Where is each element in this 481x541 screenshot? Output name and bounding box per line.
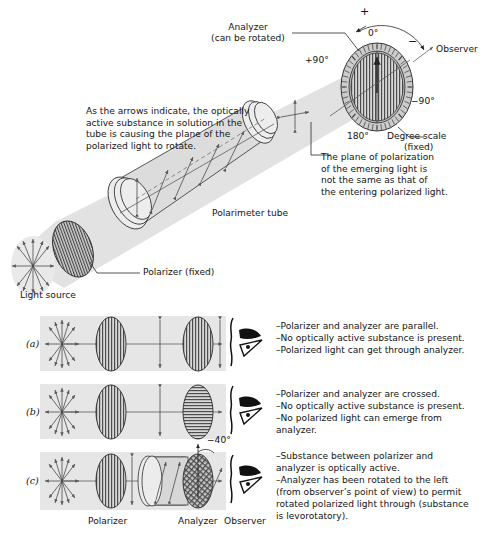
degree-scale-label: Degree scale — [387, 131, 446, 142]
analyzer-label: Analyzer — [203, 22, 293, 33]
polarizer-fixed-label: Polarizer (fixed) — [143, 267, 214, 278]
analyzer-sublabel: (can be rotated) — [193, 33, 303, 44]
row-a-note-3: –Polarized light can get through analyze… — [276, 345, 464, 356]
row-a-diagram — [40, 316, 262, 371]
observer-eye-b — [231, 386, 262, 434]
row-c-diagram — [40, 444, 262, 510]
row-b-note-2: –No optically active substance is presen… — [276, 401, 465, 412]
analyzer-a — [183, 317, 213, 371]
light-source-label: Light source — [20, 290, 76, 301]
rotation-angle-label: −40° — [207, 435, 231, 446]
dial-zero-label: 0° — [368, 28, 378, 39]
row-a-note-1: –Polarizer and analyzer are parallel. — [276, 321, 439, 332]
light-source-rays — [11, 236, 55, 296]
dial-minus90-label: −90° — [411, 96, 435, 107]
dial-plus90-label: +90° — [305, 55, 329, 66]
row-label-a: (a) — [26, 338, 39, 349]
bottom-observer-label: Observer — [224, 516, 266, 527]
row-b-diagram — [40, 384, 262, 439]
polarizer-a — [96, 317, 126, 371]
analyzer-b — [183, 385, 213, 439]
row-label-c: (c) — [26, 475, 39, 486]
row-a-note-2: –No optically active substance is presen… — [276, 333, 465, 344]
polarimeter-tube-label: Polarimeter tube — [212, 208, 288, 219]
plus-sign-label: + — [360, 6, 369, 17]
observer-eye-c — [231, 455, 262, 503]
row-c-note-2: analyzer is optically active. — [276, 463, 400, 474]
row-b-note-4: analyzer. — [276, 425, 317, 436]
observer-eye-a — [231, 318, 262, 366]
row-b-note-3: –No polarized light can emerge from — [276, 413, 442, 424]
minus-sign-label: − — [408, 36, 417, 47]
row-c-note-5: rotated polarized light through (substan… — [276, 499, 469, 510]
row-label-b: (b) — [26, 406, 40, 417]
top-annotation-text: As the arrows indicate, the optically ac… — [86, 106, 306, 152]
figure-canvas: Analyzer (can be rotated) + − Observer 0… — [0, 0, 481, 541]
bottom-analyzer-label: Analyzer — [178, 516, 218, 527]
row-c-note-4: (from observer’s point of view) to permi… — [276, 487, 461, 498]
observer-label-top: Observer — [436, 44, 478, 55]
sample-tube-c — [138, 456, 188, 506]
bottom-polarizer-label: Polarizer — [88, 516, 127, 527]
row-b-note-1: –Polarizer and analyzer are crossed. — [276, 389, 440, 400]
dial-180-label: 180° — [347, 131, 369, 142]
row-c-note-3: –Analyzer has been rotated to the left — [276, 475, 448, 486]
polarizer-b — [96, 385, 126, 439]
row-c-note-1: –Substance between polarizer and — [276, 451, 433, 462]
polarizer-c — [96, 454, 126, 508]
right-annotation-text: The plane of polarization of the emergin… — [321, 152, 481, 198]
row-c-note-6: is levorotatory). — [276, 511, 348, 522]
